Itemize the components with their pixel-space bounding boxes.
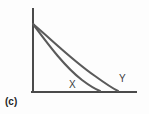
figure-panel: X Y (c)	[0, 0, 149, 114]
line-chart: X Y	[0, 0, 149, 114]
curve-label-x: X	[69, 79, 76, 90]
curve-label-y: Y	[119, 73, 126, 84]
panel-label: (c)	[5, 96, 17, 108]
